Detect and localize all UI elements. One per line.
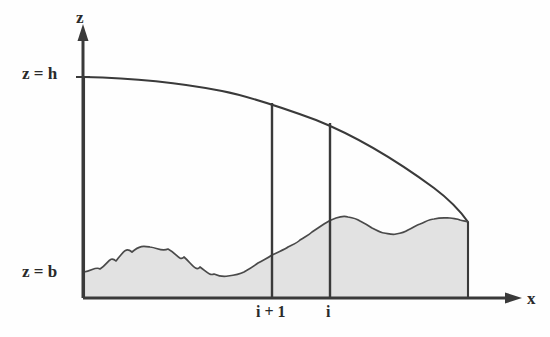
cross-section-figure <box>0 0 550 337</box>
diagram-canvas: z x z = h z = b i + 1 i <box>0 0 550 337</box>
bed-level-label: z = b <box>22 262 57 282</box>
column-label-i-plus-1: i + 1 <box>256 303 286 321</box>
surface-level-label: z = h <box>22 64 57 84</box>
x-axis-arrowhead-icon <box>505 293 522 304</box>
x-axis-label: x <box>527 289 536 309</box>
column-label-i: i <box>326 303 330 321</box>
surface-curve-z-equals-h <box>84 77 468 222</box>
z-axis-label: z <box>76 8 84 28</box>
